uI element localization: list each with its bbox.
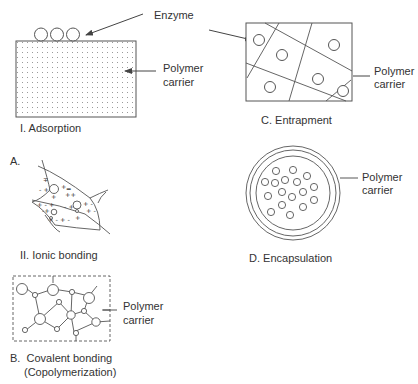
ionic-bonding-caption: II. Ionic bonding: [20, 249, 98, 262]
enzyme-circle: [67, 28, 80, 41]
entrapment-caption: C. Entrapment: [261, 114, 332, 127]
polymer-carrier-block: [16, 41, 136, 117]
adsorption-figure: [16, 14, 156, 117]
adsorption-caption: I. Adsorption: [20, 122, 81, 135]
svg-text:++: ++: [65, 191, 76, 199]
section-a-label: A.: [10, 155, 20, 168]
encapsulation-carrier-label-1: Polymer: [362, 171, 402, 184]
inner-membrane: [256, 156, 330, 230]
adsorption-carrier-label-2: carrier: [163, 76, 194, 89]
svg-text:+: +: [51, 193, 56, 201]
svg-text:-+: -+: [42, 207, 50, 215]
svg-text:- +: - +: [39, 186, 49, 194]
covalent-carrier-label-2: carrier: [123, 314, 154, 327]
entrapment-figure: [246, 23, 370, 101]
svg-text:∓: ∓: [43, 176, 48, 184]
immobilization-diagram: ∓ - + + = ++ + + - + -+ - + + - + - + + …: [0, 0, 418, 384]
svg-text:- +: - +: [64, 203, 74, 211]
encapsulation-caption: D. Encapsulation: [249, 252, 332, 265]
enzyme-circle: [51, 28, 64, 41]
covalent-carrier-label-1: Polymer: [123, 300, 163, 313]
enzyme-label: Enzyme: [154, 9, 194, 22]
svg-text:+ -: + -: [86, 207, 97, 215]
membrane-ring: [250, 150, 336, 236]
enzyme-circle: [35, 28, 48, 41]
covalent-caption-line2: (Copolymerization): [24, 366, 116, 379]
enzyme-arrow: [86, 14, 143, 35]
encapsulation-figure: [246, 146, 358, 240]
outer-membrane: [246, 146, 340, 240]
covalent-bonding-figure: [13, 276, 117, 341]
encapsulation-carrier-label-2: carrier: [362, 184, 393, 197]
entrapment-carrier-label-2: carrier: [374, 78, 405, 91]
svg-text:+ - + -: + - + -: [48, 216, 70, 224]
entrapment-carrier-label-1: Polymer: [374, 65, 414, 78]
adsorption-carrier-label-1: Polymer: [163, 62, 203, 75]
covalent-caption-line1: B. Covalent bonding: [10, 352, 112, 365]
svg-text:+: +: [75, 214, 80, 222]
